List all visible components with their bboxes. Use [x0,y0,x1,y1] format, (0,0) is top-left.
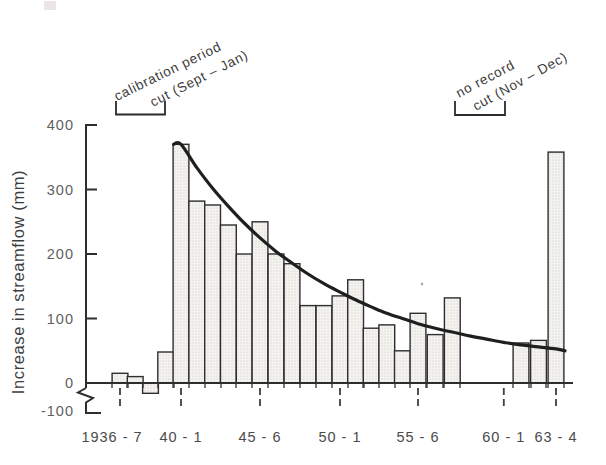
bar [513,343,529,383]
y-tick-label: 400 [47,117,74,133]
calibration-annotation: calibration period cut (Sept – Jan) [112,39,251,115]
bar [363,328,379,383]
bar [173,144,189,383]
scan-artifact [44,1,56,10]
bar [284,264,300,383]
bar [252,222,268,383]
no-record-annotation: no record cut (Nov – Dec) [453,49,570,115]
x-tick-label: 63 - 4 [534,429,577,445]
bar [348,280,364,383]
bar [189,201,205,383]
bar [395,351,411,383]
x-axis-ticks: 1936 - 740 - 145 - 650 - 155 - 660 - 163… [81,388,577,445]
bar [379,325,395,383]
x-tick-label: 50 - 1 [318,429,361,445]
bar [158,352,174,383]
bar [236,254,252,383]
y-axis-spine [78,125,101,413]
bar [300,306,316,383]
bar [332,296,348,383]
bar [427,335,443,383]
x-tick-label: 40 - 1 [159,429,202,445]
bar [221,225,237,383]
bars-group [112,144,564,393]
y-axis-ticks: 4003002001000-100 [41,117,97,419]
scan-speck [421,283,424,286]
bar [112,373,128,383]
bar [143,383,159,393]
streamflow-figure: 4003002001000-100 1936 - 740 - 145 - 650… [0,0,606,465]
streamflow-chart: 4003002001000-100 1936 - 740 - 145 - 650… [0,0,606,465]
y-axis-label: Increase in streamflow (mm) [9,170,27,394]
bar [205,205,221,383]
x-tick-label: 60 - 1 [482,429,525,445]
bar [268,254,284,383]
x-tick-label: 1936 - 7 [81,429,142,445]
x-tick-label: 55 - 6 [396,429,439,445]
bar [444,298,460,383]
y-tick-label: 100 [47,311,74,327]
bar [316,306,332,383]
y-tick-label: -100 [41,403,74,419]
y-tick-label: 0 [65,375,74,391]
y-tick-label: 300 [47,182,74,198]
y-tick-label: 200 [47,246,74,262]
x-tick-label: 45 - 6 [238,429,281,445]
